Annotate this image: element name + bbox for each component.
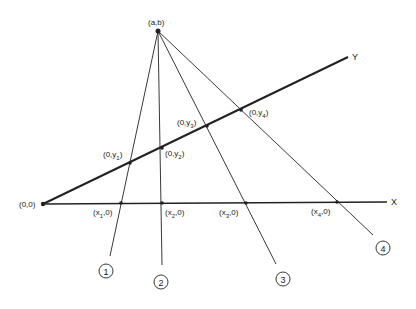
origin-label: (0,0) [19, 200, 36, 209]
line-1: (0,y1) (x1,0) 1 [93, 31, 158, 278]
origin-point [41, 202, 45, 206]
x-intercept-2-label: (x2,0) [165, 208, 185, 219]
line-4: (0,y4) (x4,0) 4 [158, 31, 390, 255]
y-intercept-4-label: (0,y4) [249, 108, 269, 119]
x-intercept-4-label: (x4,0) [311, 207, 331, 218]
line-2: (0,y2) (x2,0) 2 [154, 31, 185, 289]
diagram-canvas: X Y (0,0) (a,b) (0,y1) (x1,0) 1 (0,y2) (… [0, 0, 416, 309]
line-2-number: 2 [159, 278, 164, 288]
line-4-number: 4 [381, 244, 386, 254]
x-intercept-3 [244, 201, 248, 205]
y-intercept-1-label: (0,y1) [103, 150, 123, 161]
y-axis [43, 57, 348, 204]
x-intercept-2 [160, 201, 164, 205]
x-intercept-3-label: (x3,0) [219, 208, 239, 219]
x-intercept-1 [119, 201, 123, 205]
apex-label: (a,b) [148, 18, 165, 27]
y-intercept-2 [160, 146, 164, 150]
y-intercept-1 [128, 161, 132, 165]
y-intercept-2-label: (0,y2) [165, 149, 185, 160]
y-intercept-3 [205, 124, 209, 128]
y-axis-label: Y [352, 52, 358, 62]
x-axis-label: X [391, 197, 397, 207]
line-1-number: 1 [104, 267, 109, 277]
x-intercept-1-label: (x1,0) [93, 208, 113, 219]
x-intercept-4 [335, 200, 339, 204]
line-3-number: 3 [281, 275, 286, 285]
y-intercept-3-label: (0,y3) [177, 118, 197, 129]
y-intercept-4 [239, 108, 243, 112]
